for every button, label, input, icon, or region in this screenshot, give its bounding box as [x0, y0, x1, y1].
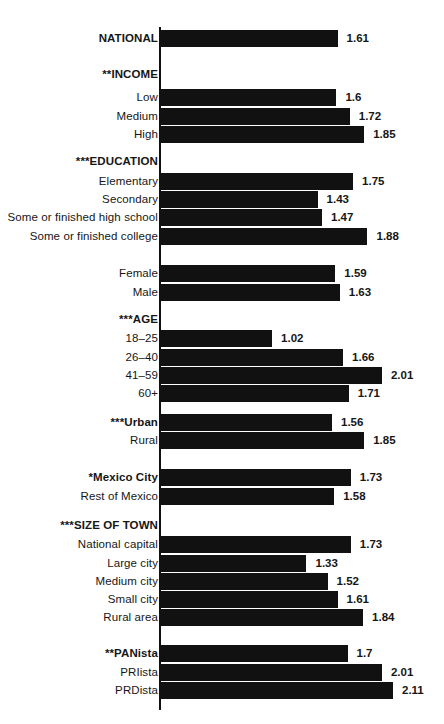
bar: [159, 682, 393, 699]
row-label: PRDista: [115, 681, 158, 700]
chart-row: NATIONAL1.61: [0, 29, 444, 48]
row-label: Some or finished college: [30, 227, 158, 246]
chart-row: Low1.6: [0, 88, 444, 107]
row-label: 60+: [138, 384, 158, 403]
chart-row: PRIista2.01: [0, 663, 444, 682]
row-label: Medium: [116, 107, 158, 126]
horizontal-bar-chart: NATIONAL1.61**INCOMELow1.6Medium1.72High…: [0, 0, 444, 724]
row-label: Rural area: [103, 608, 158, 627]
chart-row: Female1.59: [0, 264, 444, 283]
bar: [159, 173, 353, 190]
chart-row: High1.85: [0, 125, 444, 144]
row-label: ***EDUCATION: [76, 152, 158, 171]
bar: [159, 591, 338, 608]
bar-value-label: 1.47: [331, 208, 353, 227]
bar-value-label: 2.01: [391, 663, 413, 682]
chart-row: Medium city1.52: [0, 572, 444, 591]
bar-value-label: 1.43: [327, 190, 349, 209]
bar-value-label: 1.56: [341, 413, 363, 432]
row-label: ***SIZE OF TOWN: [60, 516, 158, 535]
chart-row: Some or finished high school1.47: [0, 208, 444, 227]
row-label: Male: [133, 283, 158, 302]
row-label: Medium city: [96, 572, 158, 591]
chart-row: Some or finished college1.88: [0, 227, 444, 246]
bar: [159, 536, 351, 553]
row-label: 26–40: [126, 348, 158, 367]
bar: [159, 414, 332, 431]
chart-row: ***Urban1.56: [0, 413, 444, 432]
bar: [159, 108, 350, 125]
bar: [159, 555, 306, 572]
row-label: Some or finished high school: [8, 208, 158, 227]
bar: [159, 126, 364, 143]
bar-value-label: 1.63: [349, 283, 371, 302]
bar: [159, 469, 351, 486]
bar-value-label: 1.72: [359, 107, 381, 126]
row-label: Elementary: [99, 172, 158, 191]
chart-row: Male1.63: [0, 283, 444, 302]
bar-value-label: 1.85: [373, 125, 395, 144]
bar-value-label: 2.01: [391, 366, 413, 385]
bar: [159, 191, 318, 208]
row-label: *Mexico City: [88, 468, 158, 487]
bar: [159, 284, 340, 301]
row-label: Rest of Mexico: [81, 487, 158, 506]
bar-value-label: 1.52: [337, 572, 359, 591]
bar-value-label: 2.11: [402, 681, 424, 700]
bar: [159, 209, 322, 226]
chart-row: 41–592.01: [0, 366, 444, 385]
chart-row: Medium1.72: [0, 107, 444, 126]
bar: [159, 432, 364, 449]
row-label: ***AGE: [119, 310, 158, 329]
chart-row: Rural1.85: [0, 431, 444, 450]
bar-value-label: 1.59: [344, 264, 366, 283]
chart-row: *Mexico City1.73: [0, 468, 444, 487]
row-label: **INCOME: [102, 65, 158, 84]
chart-row: ***AGE: [0, 310, 444, 329]
chart-row: Rural area1.84: [0, 608, 444, 627]
chart-row: Elementary1.75: [0, 172, 444, 191]
chart-row: Large city1.33: [0, 554, 444, 573]
bar: [159, 385, 349, 402]
bar-value-label: 1.84: [372, 608, 394, 627]
bar-value-label: 1.02: [281, 329, 303, 348]
bar-value-label: 1.85: [373, 431, 395, 450]
bar: [159, 228, 367, 245]
row-label: Rural: [130, 431, 158, 450]
row-label: **PANista: [105, 644, 158, 663]
bar-value-label: 1.6: [345, 88, 361, 107]
bar-value-label: 1.7: [357, 644, 373, 663]
row-label: Small city: [108, 590, 158, 609]
chart-row: **INCOME: [0, 65, 444, 84]
chart-row: 60+1.71: [0, 384, 444, 403]
row-label: Secondary: [102, 190, 158, 209]
chart-row: **PANista1.7: [0, 644, 444, 663]
chart-row: Secondary1.43: [0, 190, 444, 209]
chart-row: PRDista2.11: [0, 681, 444, 700]
bar: [159, 488, 334, 505]
bar: [159, 645, 348, 662]
chart-row: ***SIZE OF TOWN: [0, 516, 444, 535]
bar: [159, 265, 335, 282]
row-label: 18–25: [126, 329, 158, 348]
bar-value-label: 1.61: [347, 590, 369, 609]
bar-value-label: 1.58: [343, 487, 365, 506]
row-label: ***Urban: [111, 413, 158, 432]
bar-value-label: 1.61: [347, 29, 369, 48]
bar-value-label: 1.75: [362, 172, 384, 191]
bar: [159, 30, 338, 47]
bar-value-label: 1.33: [315, 554, 337, 573]
bar: [159, 367, 382, 384]
row-label: High: [134, 125, 158, 144]
bar-value-label: 1.88: [376, 227, 398, 246]
row-label: Large city: [107, 554, 158, 573]
bar-value-label: 1.71: [358, 384, 380, 403]
chart-row: 18–251.02: [0, 329, 444, 348]
bar: [159, 89, 336, 106]
bar: [159, 664, 382, 681]
chart-row: National capital1.73: [0, 535, 444, 554]
chart-row: Rest of Mexico1.58: [0, 487, 444, 506]
bar: [159, 573, 328, 590]
row-label: National capital: [78, 535, 158, 554]
row-label: PRIista: [120, 663, 158, 682]
